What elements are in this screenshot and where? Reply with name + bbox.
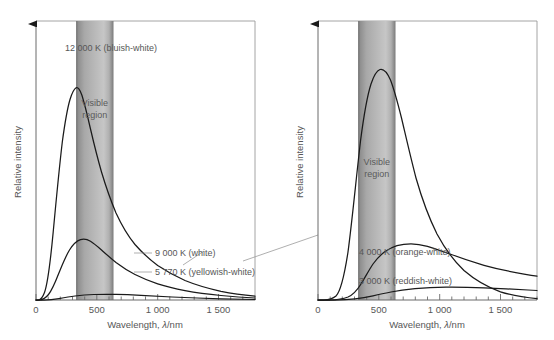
x-tick-label-right-0: 0 (315, 304, 320, 315)
x-axis-title-left-unit: /nm (167, 319, 183, 330)
visible-region-label-right-line1: Visible (364, 157, 390, 167)
curve-5770k-right (318, 69, 537, 300)
series-label-9000k: 9 000 K (white) (155, 248, 216, 258)
x-tick-label-right-1000: 1 000 (428, 304, 452, 315)
x-tick-label-left-500: 500 (89, 304, 105, 315)
panel-connector-line (243, 235, 318, 261)
blackbody-radiation-figure: 12 000 K (bluish-white) 9 000 K (white) … (0, 0, 554, 340)
x-tick-label-right-1500: 1 500 (489, 304, 513, 315)
y-axis-title-right: Relative intensity (294, 126, 305, 198)
series-label-4000k: 4 000 K (orange-white) (359, 247, 451, 257)
x-tick-label-left-1500: 1 500 (207, 304, 231, 315)
series-label-3000k: 3 000 K (reddish-white) (359, 276, 452, 286)
plot-frame-right (318, 21, 537, 300)
series-label-12000k: 12 000 K (bluish-white) (65, 43, 157, 53)
plot-frame-left (36, 21, 255, 300)
visible-region-band-left (76, 21, 113, 300)
visible-region-label-left-line1: Visible (82, 98, 108, 108)
visible-region-label-right-line2: region (364, 169, 389, 179)
series-label-5770k: 5 770 K (yellowish-white) (155, 267, 255, 277)
x-tick-label-left-1000: 1 000 (146, 304, 170, 315)
x-axis-title-right-main: Wavelength, (389, 319, 444, 330)
x-axis-title-right-unit: /nm (449, 319, 465, 330)
cool-stars-panel: 4 000 K (orange-white) 3 000 K (reddish-… (294, 21, 537, 330)
x-axis-title-left: Wavelength, λ/nm (107, 319, 183, 330)
y-axis-title-left: Relative intensity (12, 126, 23, 198)
x-axis-title-left-main: Wavelength, (107, 319, 162, 330)
x-axis-title-right: Wavelength, λ/nm (389, 319, 465, 330)
visible-region-label-left-line2: region (82, 110, 107, 120)
x-tick-label-left-0: 0 (33, 304, 38, 315)
x-tick-label-right-500: 500 (371, 304, 387, 315)
hot-stars-panel: 12 000 K (bluish-white) 9 000 K (white) … (12, 21, 255, 330)
